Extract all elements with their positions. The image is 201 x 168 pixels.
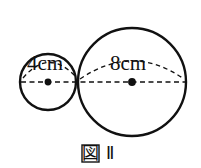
small-circle-radius-label: 4cm — [27, 51, 63, 75]
caption-kanji: 図 — [82, 143, 99, 163]
figure-container: 4cm 8cm 図 Ⅱ — [0, 0, 201, 168]
small-circle-center-dot — [45, 79, 52, 86]
caption-numeral: Ⅱ — [106, 143, 114, 163]
large-circle-center-dot — [128, 78, 136, 86]
large-circle-radius-label: 8cm — [110, 51, 146, 75]
two-circles-diagram: 4cm 8cm 図 Ⅱ — [0, 0, 201, 168]
